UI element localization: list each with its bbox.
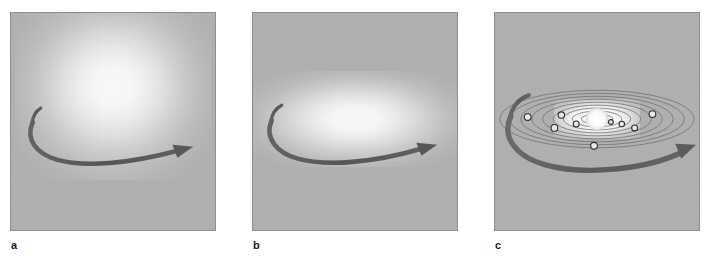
panel-label-a: a <box>11 239 17 251</box>
rotation-arrow-shaft <box>269 120 421 163</box>
panel-c <box>494 12 700 231</box>
panel-a <box>10 12 216 231</box>
planet-6 <box>551 125 558 132</box>
panel-label-c: c <box>495 239 501 251</box>
planet-3 <box>619 121 625 127</box>
planet-8 <box>524 114 531 121</box>
planet-5 <box>632 125 638 131</box>
panel-a-overlay <box>11 13 215 230</box>
planet-1 <box>608 120 613 125</box>
panel-b-overlay <box>253 13 457 230</box>
rotation-arrow-tail <box>271 105 282 122</box>
planet-2 <box>573 121 579 127</box>
rotation-arrow-head <box>416 143 437 156</box>
rotation-arrow-shaft <box>30 122 177 164</box>
figure-solar-system-formation: a b <box>0 0 713 263</box>
planet-9 <box>591 142 598 149</box>
panel-label-b: b <box>253 239 260 251</box>
rotation-arrow-tail <box>32 108 41 124</box>
panel-b <box>252 12 458 231</box>
planet-4 <box>558 112 564 118</box>
rotation-arrow-head <box>172 145 193 158</box>
panel-c-overlay <box>495 13 699 230</box>
central-sun <box>586 108 608 130</box>
planet-7 <box>649 111 656 118</box>
